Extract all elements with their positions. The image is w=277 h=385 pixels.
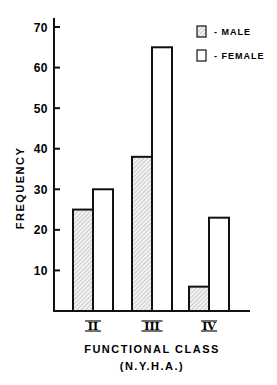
bar-female-iv — [209, 218, 229, 311]
bars — [73, 47, 229, 311]
y-axis: 10203040506070 — [34, 18, 60, 311]
y-tick-label: 60 — [34, 61, 48, 75]
y-tick-label: 70 — [34, 21, 48, 35]
legend-swatch-female — [197, 50, 206, 61]
y-tick-label: 50 — [34, 102, 48, 116]
bar-male-ii — [73, 210, 93, 311]
y-tick-label: 20 — [34, 223, 48, 237]
bar-chart: 10203040506070 IIIIIIV FREQUENCY FUNCTIO… — [0, 0, 277, 385]
x-axis: IIIIIIV — [53, 311, 250, 333]
y-tick-label: 10 — [34, 264, 48, 278]
x-axis-subtitle: (N.Y.H.A.) — [120, 360, 185, 372]
bar-male-iii — [132, 157, 152, 311]
legend-label-female: - FEMALE — [214, 51, 265, 61]
legend-swatch-male — [197, 26, 206, 37]
bar-female-ii — [93, 189, 113, 311]
legend-label-male: - MALE — [214, 27, 251, 37]
bar-female-iii — [152, 47, 172, 311]
y-axis-title: FREQUENCY — [14, 147, 26, 230]
y-tick-label: 30 — [34, 183, 48, 197]
legend: - MALE - FEMALE — [197, 26, 265, 61]
bar-male-iv — [189, 287, 209, 311]
x-axis-title: FUNCTIONAL CLASS — [84, 343, 220, 355]
y-tick-label: 40 — [34, 142, 48, 156]
